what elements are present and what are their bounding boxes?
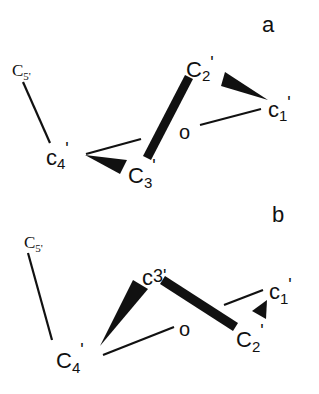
atom-c3-label: c3'	[142, 265, 166, 290]
bond-c2-c1-wedge	[221, 72, 268, 100]
atom-c2-label: C2'	[186, 53, 214, 84]
atom-c1-label: c1'	[268, 93, 291, 124]
atom-c1-label: c1'	[269, 275, 292, 307]
bond-c4-o	[86, 139, 141, 154]
bond-c4-o	[103, 327, 174, 355]
atom-c4-label: C4'	[56, 340, 84, 376]
panel-label-a: a	[262, 12, 275, 37]
atom-o-label: o	[179, 121, 190, 143]
atom-c5-label: C5'	[12, 61, 31, 82]
atom-c3-label: C3'	[128, 156, 156, 191]
bond-o-c1	[224, 290, 263, 305]
bond-c5-c4	[28, 253, 52, 340]
bond-c3-c2-bold	[143, 75, 193, 160]
atom-c4-label: c4'	[46, 139, 69, 172]
panel-a: a C5' c4' C3' C2' c1'	[12, 12, 291, 191]
bond-c2-c1-wedge	[252, 300, 267, 319]
atom-c2-label: C2'	[236, 321, 264, 355]
panel-b: b C5' C4' c3' o C2' c	[24, 202, 292, 376]
panel-label-b: b	[272, 202, 284, 227]
sugar-pucker-diagram: a C5' c4' C3' C2' c1'	[0, 0, 319, 394]
bond-c5-c4	[23, 82, 50, 143]
bond-c4-c3-wedge	[85, 155, 127, 174]
bond-c4-c3-wedge	[100, 280, 148, 346]
atom-o-label: o	[179, 318, 190, 340]
atom-c5-label: C5'	[24, 233, 43, 254]
bond-o-c1	[200, 109, 261, 125]
